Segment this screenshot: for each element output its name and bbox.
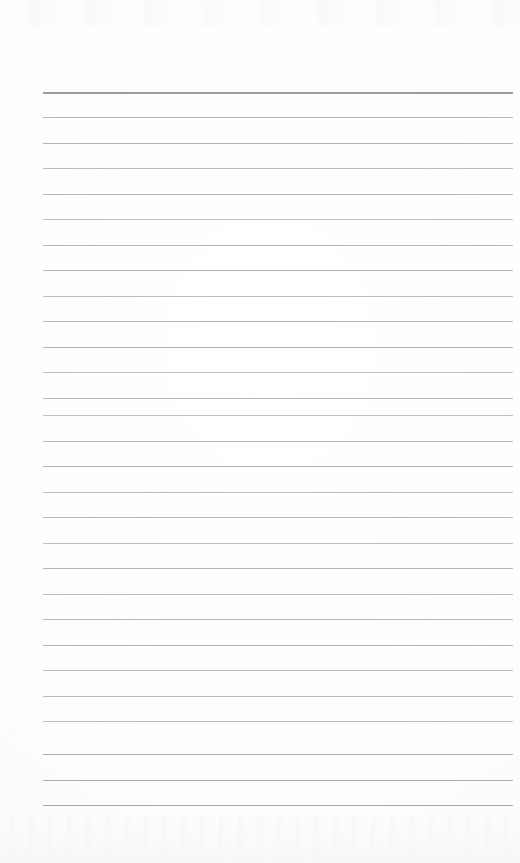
rule-line-8 [43, 270, 513, 271]
rule-line-16 [43, 466, 513, 467]
rule-line-1 [43, 92, 513, 94]
rule-line-10 [43, 321, 513, 322]
rule-line-11 [43, 347, 513, 348]
rule-line-15 [43, 441, 513, 442]
rule-line-19 [43, 543, 513, 544]
rule-line-5 [43, 194, 513, 195]
scanned-notepad-page [0, 0, 520, 863]
rule-line-26 [43, 721, 513, 722]
rule-line-23 [43, 645, 513, 646]
rule-line-21 [43, 594, 513, 595]
rule-line-24 [43, 670, 513, 671]
rule-line-7 [43, 245, 513, 246]
rule-line-14 [43, 415, 513, 416]
rule-line-17 [43, 492, 513, 493]
rule-line-2 [43, 117, 513, 118]
rule-line-6 [43, 219, 513, 220]
rule-line-3 [43, 143, 513, 144]
rule-line-22 [43, 619, 513, 620]
rule-line-9 [43, 296, 513, 297]
rule-line-28 [43, 780, 513, 781]
ruled-lines-layer [0, 0, 520, 863]
rule-line-13 [43, 398, 513, 399]
rule-line-27 [43, 754, 513, 755]
rule-line-29 [43, 805, 513, 806]
rule-line-25 [43, 696, 513, 697]
rule-line-12 [43, 372, 513, 373]
rule-line-4 [43, 168, 513, 169]
rule-line-18 [43, 517, 513, 518]
rule-line-20 [43, 568, 513, 569]
